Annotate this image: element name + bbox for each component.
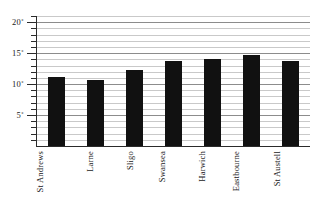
x-axis-label-slot: Larne bbox=[75, 149, 114, 219]
bar bbox=[204, 59, 222, 146]
y-axis-tick-group bbox=[26, 16, 36, 147]
y-axis-tick-major bbox=[27, 115, 36, 116]
bar-chart-figure: 5˚10˚15˚20˚ St AndrewsLarneSligoSwanseaH… bbox=[0, 0, 321, 221]
bar bbox=[48, 77, 66, 146]
x-axis-label-slot: Harwich bbox=[192, 149, 231, 219]
gridline-minor bbox=[37, 41, 310, 42]
x-axis-label-slot: St Austell bbox=[270, 149, 309, 219]
x-axis-tick-label: St Austell bbox=[272, 151, 282, 186]
x-axis-tick-label: St Andrews bbox=[35, 151, 45, 192]
x-axis-label-group: St AndrewsLarneSligoSwanseaHarwichEastbo… bbox=[36, 149, 310, 219]
y-axis-tick-major bbox=[27, 53, 36, 54]
y-axis-tick-label: 15˚ bbox=[12, 48, 24, 58]
x-axis-tick-label: Sligo bbox=[124, 151, 134, 170]
bar bbox=[165, 61, 183, 146]
x-axis-label-slot: Sligo bbox=[114, 149, 153, 219]
bar bbox=[243, 55, 261, 146]
plot-area bbox=[36, 16, 310, 147]
gridline-minor bbox=[37, 59, 310, 60]
y-axis-tick-major bbox=[27, 84, 36, 85]
x-axis-tick-label: Larne bbox=[84, 151, 94, 172]
gridline-major bbox=[37, 22, 310, 23]
y-axis-tick-label: 20˚ bbox=[12, 17, 24, 27]
bar bbox=[87, 80, 105, 146]
y-axis-tick-label: 5˚ bbox=[17, 110, 24, 120]
x-axis-label-slot: St Andrews bbox=[36, 149, 75, 219]
x-axis-tick-label: Swansea bbox=[157, 151, 167, 182]
x-axis-tick-label: Eastbourne bbox=[230, 151, 240, 191]
x-axis-tick-label: Harwich bbox=[196, 151, 206, 182]
gridline-minor bbox=[37, 16, 310, 17]
gridline-minor bbox=[37, 28, 310, 29]
y-axis-tick-major bbox=[27, 22, 36, 23]
gridline-minor bbox=[37, 47, 310, 48]
gridline-minor bbox=[37, 35, 310, 36]
gridline-major bbox=[37, 53, 310, 54]
y-axis-label-group: 5˚10˚15˚20˚ bbox=[0, 16, 24, 147]
x-axis-label-slot: Eastbourne bbox=[231, 149, 270, 219]
x-axis-label-slot: Swansea bbox=[153, 149, 192, 219]
y-axis-tick-label: 10˚ bbox=[12, 79, 24, 89]
bar bbox=[282, 61, 300, 146]
bar bbox=[126, 70, 144, 146]
